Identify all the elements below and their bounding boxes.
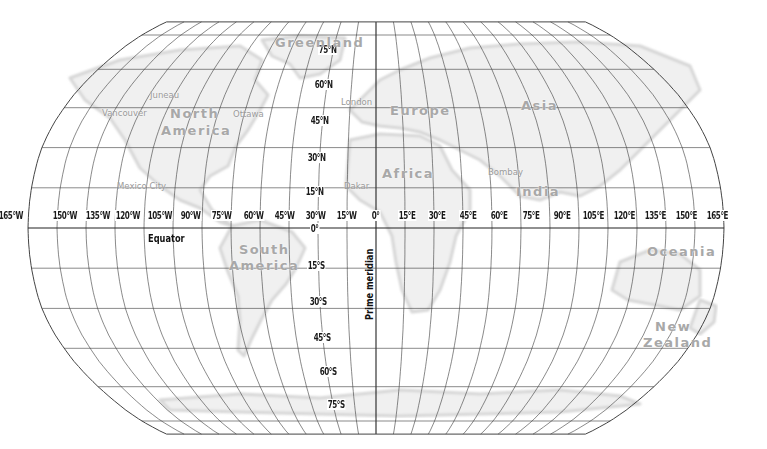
latitude-label: 15°N [305, 186, 324, 197]
longitude-label: 0° [371, 210, 380, 221]
city-label-london: London [341, 97, 372, 107]
longitude-label: 90°W [180, 210, 201, 221]
longitude-label: 30°E [428, 210, 446, 221]
region-label-america-south: America [229, 259, 299, 273]
longitude-label: 120°W [115, 210, 141, 221]
city-label-bombay: Bombay [488, 167, 523, 177]
longitude-label: 60°W [243, 210, 264, 221]
city-label-juneau: Juneau [150, 90, 179, 100]
longitude-label: 135°W [85, 210, 111, 221]
longitude-label: 90°E [553, 210, 571, 221]
city-label-dakar: Dakar [344, 181, 369, 191]
region-label-india: India [516, 185, 560, 199]
longitude-label: 105°E [582, 210, 605, 221]
longitude-label: 15°E [398, 210, 416, 221]
region-label-north: North [170, 107, 219, 121]
region-label-zealand: Zealand [643, 336, 712, 350]
longitude-label: 45°E [459, 210, 477, 221]
world-map [0, 0, 767, 449]
latitude-label: 75°S [327, 399, 345, 410]
longitude-label: 30°W [305, 210, 326, 221]
latitude-label: 45°N [310, 115, 329, 126]
city-label-ottawa: Ottawa [233, 109, 264, 119]
region-label-europe: Europe [390, 104, 451, 118]
region-label-greenland: Greenland [275, 36, 364, 50]
longitude-label: 150°W [52, 210, 78, 221]
prime-meridian-label: Prime meridian [363, 249, 376, 320]
equator-zero-label: 0° [310, 223, 319, 234]
equator-label: Equator [148, 232, 185, 245]
longitude-label: 105°W [147, 210, 173, 221]
landmass-australia [612, 250, 700, 310]
city-label-vancouver: Vancouver [102, 108, 147, 118]
region-label-south: South [239, 243, 290, 257]
region-label-oceania: Oceania [647, 245, 716, 259]
latitude-label: 30°S [309, 296, 327, 307]
longitude-label: 60°E [490, 210, 508, 221]
region-label-america: America [161, 124, 231, 138]
longitude-label: 75°W [211, 210, 232, 221]
graticule [28, 22, 724, 434]
latitude-label: 30°N [307, 152, 326, 163]
landmass-new-zealand [690, 300, 716, 334]
region-label-new: New [655, 320, 691, 334]
latitude-label: 45°S [313, 332, 331, 343]
longitude-label: 135°E [644, 210, 667, 221]
longitude-label: 15°W [336, 210, 357, 221]
longitude-label: 120°E [613, 210, 636, 221]
latitude-label: 60°S [319, 366, 337, 377]
latitude-label: 15°S [307, 260, 325, 271]
region-label-africa: Africa [382, 167, 434, 181]
longitude-label: 165°E [706, 210, 729, 221]
latitude-label: 60°N [314, 79, 333, 90]
longitude-label: 75°E [522, 210, 540, 221]
longitude-label: 45°W [274, 210, 295, 221]
city-label-mexico-city: Mexico City [117, 181, 166, 191]
region-label-asia: Asia [521, 99, 558, 113]
longitude-label: 150°E [675, 210, 698, 221]
longitude-label: 165°W [0, 210, 24, 221]
